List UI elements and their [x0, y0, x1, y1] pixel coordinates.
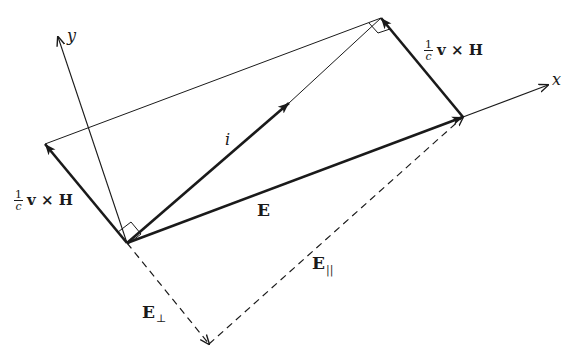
vxh-label-left: 1c v × H [14, 185, 73, 212]
vxh-label-right: 1c v × H [424, 35, 483, 62]
i-vector-label: i [225, 132, 230, 148]
E-perp-component [127, 243, 209, 344]
E-parallel-label: E|| [312, 255, 333, 275]
E-vector-label: E [257, 202, 270, 219]
y-axis-label: y [67, 28, 76, 44]
E-perp-label: E⊥ [142, 304, 166, 324]
i-vector [127, 103, 289, 243]
E-perp-sub: ⊥ [156, 312, 166, 325]
vector-diagram: y x i E E|| E⊥ 1c v × H 1c v × H [0, 0, 575, 362]
fraction-denominator: c [15, 201, 21, 212]
i-vector-extension [289, 18, 381, 103]
x-axis [463, 85, 548, 117]
E-vector [127, 117, 463, 243]
parallelogram-top-edge [45, 18, 381, 144]
E-parallel-sub: || [326, 263, 333, 276]
E-parallel-main: E [312, 253, 325, 273]
vxh-expression: v × H [437, 43, 483, 58]
x-axis-label: x [552, 72, 561, 88]
E-parallel-component [209, 117, 463, 344]
E-perp-main: E [142, 302, 155, 322]
vxh-vector-right [381, 18, 463, 117]
vxh-expression: v × H [27, 193, 73, 208]
y-axis [58, 37, 127, 243]
fraction-denominator: c [425, 51, 431, 62]
diagram-graphics [0, 0, 575, 362]
